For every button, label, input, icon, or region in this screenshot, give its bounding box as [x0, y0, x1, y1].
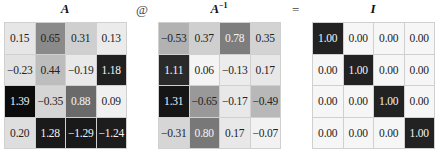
matrix-cell: −0.35 — [36, 86, 66, 117]
matrix-cell: −0.07 — [251, 118, 281, 149]
matrix-cell: 1.31 — [159, 86, 189, 117]
matrix-cell: 0.09 — [97, 86, 127, 117]
matmul-operator: @ — [136, 2, 148, 18]
matrix-cell: 1.00 — [344, 55, 374, 86]
matrix-cell: 0.00 — [344, 118, 374, 149]
matrix-cell: 1.39 — [5, 86, 35, 117]
matrix-cell: 0.80 — [190, 118, 220, 149]
matrix-cell: −0.19 — [66, 55, 96, 86]
matrix-cell: 0.44 — [36, 55, 66, 86]
matrix-cell: 0.00 — [374, 118, 404, 149]
matrix-cell: −0.31 — [159, 118, 189, 149]
matrix-cell: 0.00 — [405, 55, 435, 86]
matrix-cell: 1.28 — [36, 118, 66, 149]
matrix-cell: 0.35 — [251, 23, 281, 54]
matrix-cell: 0.06 — [190, 55, 220, 86]
matrix-cell: 0.17 — [220, 118, 250, 149]
matrix-a-inverse-title: A−1 — [158, 1, 280, 17]
matrix-a-inverse-grid: −0.530.370.780.351.110.06−0.130.171.31−0… — [158, 22, 281, 149]
matrix-cell: 0.00 — [313, 86, 343, 117]
matrix-cell: −0.53 — [159, 23, 189, 54]
matrix-cell: 0.65 — [36, 23, 66, 54]
matrix-cell: 0.37 — [190, 23, 220, 54]
matrix-cell: 0.13 — [97, 23, 127, 54]
matrix-cell: 0.00 — [344, 23, 374, 54]
matrix-cell: 0.00 — [405, 86, 435, 117]
matrix-cell: −0.17 — [220, 86, 250, 117]
matrix-cell: 1.11 — [159, 55, 189, 86]
matrix-cell: 0.00 — [405, 23, 435, 54]
matrix-cell: 1.00 — [313, 23, 343, 54]
matrix-cell: 1.00 — [374, 86, 404, 117]
matrix-a-grid: 0.150.650.310.13−0.230.44−0.191.181.39−0… — [4, 22, 127, 149]
matrix-cell: −0.65 — [190, 86, 220, 117]
matrix-cell: −0.13 — [220, 55, 250, 86]
matrix-cell: 1.00 — [405, 118, 435, 149]
matrix-cell: −0.23 — [5, 55, 35, 86]
matrix-cell: 0.17 — [251, 55, 281, 86]
matrix-identity-title: I — [312, 1, 434, 17]
matrix-cell: 1.18 — [97, 55, 127, 86]
matrix-identity-grid: 1.000.000.000.000.001.000.000.000.000.00… — [312, 22, 435, 149]
matrix-cell: −0.49 — [251, 86, 281, 117]
matrix-cell: −1.24 — [97, 118, 127, 149]
matrix-cell: 0.88 — [66, 86, 96, 117]
matrix-cell: 0.00 — [313, 118, 343, 149]
matrix-cell: −1.29 — [66, 118, 96, 149]
matrix-cell: 0.00 — [374, 23, 404, 54]
matrix-cell: 0.31 — [66, 23, 96, 54]
equals-operator: = — [292, 2, 299, 18]
matrix-cell: 0.20 — [5, 118, 35, 149]
matrix-cell: 0.00 — [374, 55, 404, 86]
matrix-cell: 0.00 — [313, 55, 343, 86]
matrix-cell: 0.78 — [220, 23, 250, 54]
matrix-cell: 0.15 — [5, 23, 35, 54]
matrix-cell: 0.00 — [344, 86, 374, 117]
matrix-a-title: A — [4, 1, 126, 17]
